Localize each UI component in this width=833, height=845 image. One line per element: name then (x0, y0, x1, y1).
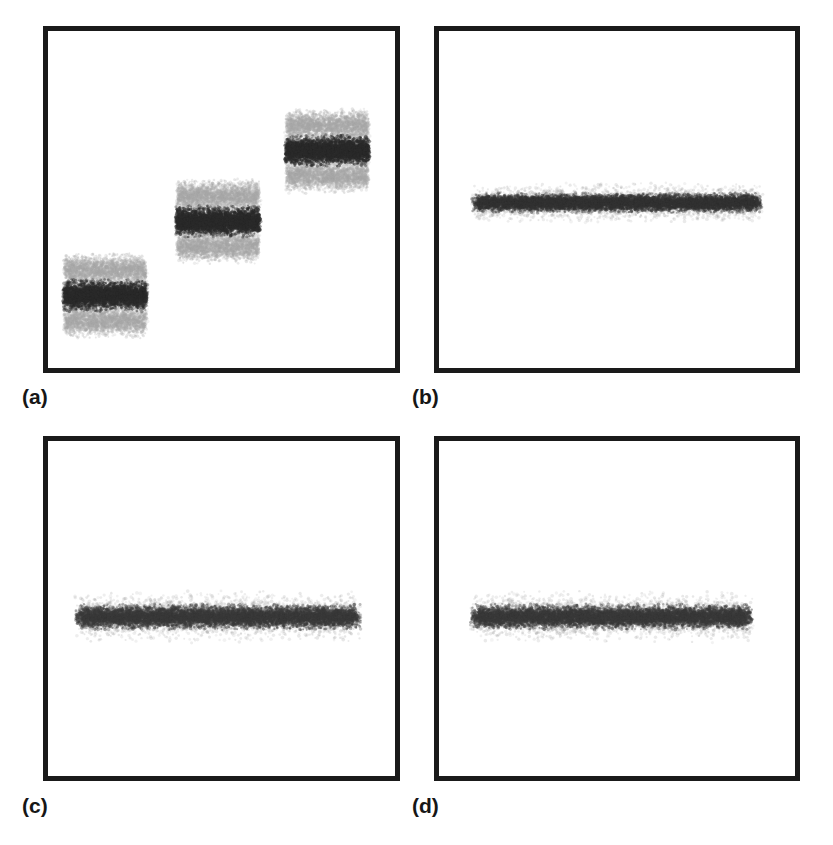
figure-root: (a) (b) (c) (d) (0, 0, 833, 845)
panel-label-b: (b) (412, 386, 439, 407)
panel-label-a: (a) (22, 386, 48, 407)
panel-a-scatter (48, 31, 395, 368)
panel-d (434, 436, 800, 781)
panel-b-scatter (439, 31, 795, 368)
panel-b (434, 26, 800, 373)
panel-a (43, 26, 400, 373)
panel-c-scatter (48, 441, 395, 776)
panel-label-c: (c) (22, 795, 48, 816)
panel-c (43, 436, 400, 781)
panel-label-d: (d) (412, 795, 439, 816)
panel-d-scatter (439, 441, 795, 776)
